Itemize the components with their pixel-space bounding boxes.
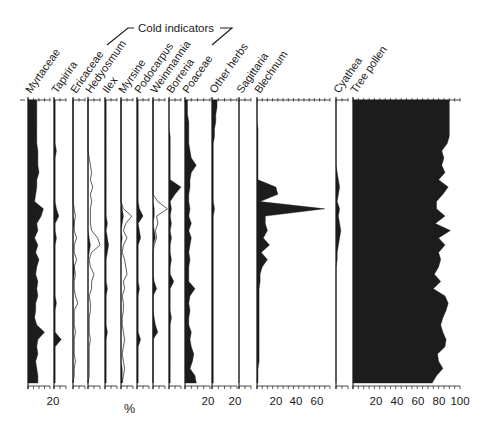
cold-indicators-bracket-right <box>212 28 232 45</box>
column-sagittaria <box>239 97 251 389</box>
x-axis-unit-label: % <box>124 402 135 416</box>
exaggeration-curve <box>153 100 167 383</box>
tick-label: 80 <box>433 395 446 407</box>
tick-label: 20 <box>47 395 60 407</box>
tick-label: 20 <box>202 395 215 407</box>
tick-label: 100 <box>450 395 469 407</box>
column-ericaceae <box>73 97 85 389</box>
column-borreria <box>169 97 181 389</box>
exaggeration-curve <box>73 100 78 383</box>
tick-label: 40 <box>290 395 303 407</box>
percentage-silhouette <box>257 100 325 383</box>
taxa-labels: MyrtaceaeTapiriraEricaceaeHedyosmumIlexM… <box>23 38 389 96</box>
tick-label: 60 <box>311 395 324 407</box>
tick-label: 20 <box>270 395 283 407</box>
percentage-silhouette <box>28 100 45 383</box>
column-tree-pollen: 20406080100 <box>353 97 470 407</box>
column-ilex <box>105 97 117 389</box>
column-weinmannia <box>153 97 167 389</box>
column-other-herbs: 20 <box>212 97 241 407</box>
percentage-silhouette <box>336 100 341 383</box>
cold-indicators-annotation: Cold indicators <box>107 22 232 45</box>
column-tapirira <box>54 97 66 389</box>
percentage-silhouette <box>185 100 196 383</box>
percentage-silhouette <box>353 100 450 383</box>
tick-label: 20 <box>370 395 383 407</box>
percentage-silhouette <box>212 100 217 383</box>
percentage-silhouette <box>169 100 181 383</box>
exaggeration-curve <box>121 100 132 383</box>
pollen-diagram: Cold indicators MyrtaceaeTapiriraEricace… <box>0 0 495 437</box>
column-poaceae: 20 <box>185 97 214 407</box>
cold-indicators-label: Cold indicators <box>138 22 214 34</box>
tick-label: 20 <box>229 395 242 407</box>
tick-label: 60 <box>412 395 425 407</box>
column-myrsine <box>121 97 133 389</box>
taxa-columns: 20202020406020406080100 <box>20 97 470 407</box>
column-hedyosmum <box>88 97 100 389</box>
tick-label: 40 <box>391 395 404 407</box>
percentage-silhouette <box>54 100 61 383</box>
column-cyathea <box>336 97 348 389</box>
percentage-silhouette <box>137 100 143 383</box>
column-podocarpus <box>137 97 149 389</box>
column-blechnum: 204060 <box>257 97 330 407</box>
